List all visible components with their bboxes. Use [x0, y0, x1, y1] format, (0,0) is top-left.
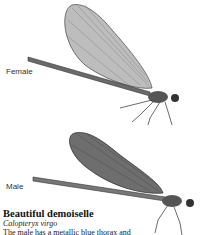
female-label: Female [6, 67, 33, 76]
male-label: Male [6, 182, 23, 191]
species-latin-name: Calopteryx virgo [3, 219, 57, 228]
female-demoiselle-illustration [0, 0, 203, 125]
species-description: The male has a metallic blue thorax and [3, 228, 131, 235]
species-common-name: Beautiful demoiselle [3, 208, 94, 219]
